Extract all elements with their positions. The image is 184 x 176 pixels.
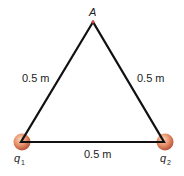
equilateral-triangle-diagram: A 0.5 m 0.5 m 0.5 m q 1 q 2 — [0, 0, 184, 176]
svg-text:1: 1 — [21, 159, 25, 166]
side-label-bottom: 0.5 m — [84, 148, 112, 160]
svg-text:q: q — [14, 152, 21, 164]
point-a-dot — [91, 20, 94, 23]
charge-label-q1: q 1 — [14, 152, 25, 166]
vertex-label-a: A — [88, 6, 96, 18]
svg-text:q: q — [160, 152, 167, 164]
side-label-right: 0.5 m — [137, 72, 165, 84]
charge-label-q2: q 2 — [160, 152, 171, 166]
side-label-left: 0.5 m — [22, 72, 50, 84]
svg-text:2: 2 — [167, 159, 171, 166]
